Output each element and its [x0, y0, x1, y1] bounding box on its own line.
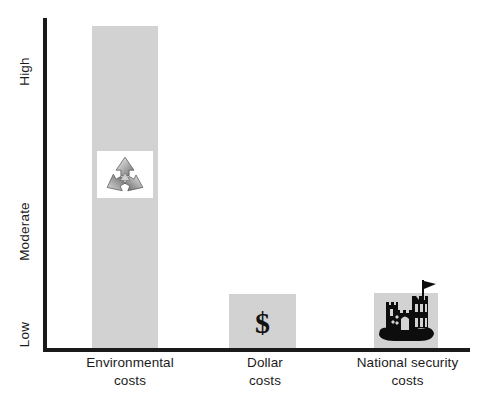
bar-chart: High Moderate Low	[0, 0, 489, 414]
y-axis-tick-high: High	[17, 44, 32, 100]
x-axis-label-dollar-costs: Dollar costs	[200, 354, 330, 390]
x-axis-label-line1: National security	[357, 355, 459, 370]
x-axis-label-line2: costs	[200, 372, 330, 390]
x-axis-line	[43, 348, 470, 352]
y-axis-tick-moderate: Moderate	[17, 188, 32, 276]
x-axis-label-line1: Dollar	[247, 355, 283, 370]
x-axis-label-national-security-costs: National security costs	[330, 354, 485, 390]
x-axis-label-line2: costs	[330, 372, 485, 390]
x-axis-label-line1: Environmental	[86, 355, 174, 370]
dollar-sign-icon: $	[229, 308, 296, 338]
x-axis-label-environmental-costs: Environmental costs	[50, 354, 210, 390]
recycling-icon	[97, 151, 153, 198]
y-axis-tick-low: Low	[17, 307, 32, 363]
x-axis-label-line2: costs	[50, 372, 210, 390]
plot-area: $	[47, 18, 470, 348]
castle-fort-icon	[374, 278, 438, 348]
